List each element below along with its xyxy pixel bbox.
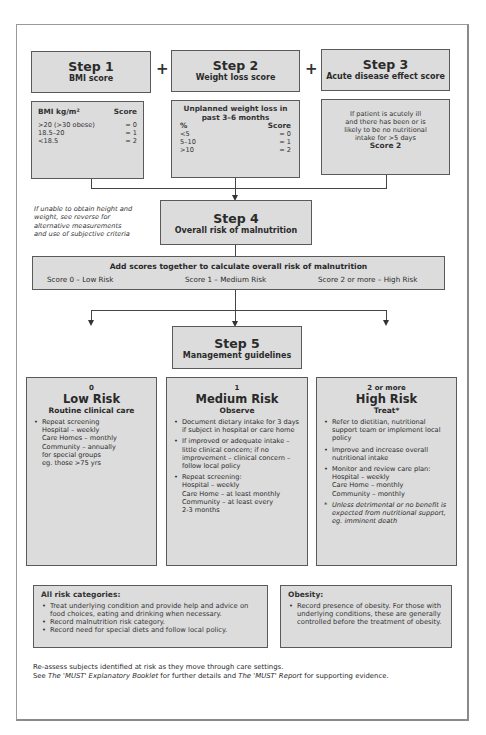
bullet-text: Monitor and review care plan: [332, 465, 430, 473]
score-header: Score [268, 122, 291, 130]
acute-text: If patient is acutely ill [322, 110, 449, 118]
acute-text: likely to be no nutritional [322, 126, 449, 134]
step-1-box: Step 1 BMI score [31, 51, 151, 93]
obesity-title: Obesity: [288, 591, 444, 599]
low-risk-box: 0 Low Risk Routine clinical care Repeat … [26, 377, 157, 566]
connector [91, 179, 92, 188]
footer-text-part: for supporting evidence. [302, 672, 389, 680]
step-2-title: Step 2 [172, 59, 299, 73]
acute-disease-box: If patient is acutely ill and there has … [321, 99, 450, 175]
all-risk-box: All risk categories: Treat underlying co… [33, 585, 268, 648]
bmi-score: = 2 [125, 137, 137, 145]
bullet-line: Hospital – weekly [332, 473, 450, 481]
step-1-title: Step 1 [32, 60, 150, 74]
side-note-line: and use of subjective criteria [34, 230, 154, 238]
acute-score: Score 2 [322, 142, 449, 150]
low-risk-score: Score 0 – Low Risk [47, 275, 114, 284]
high-risk-title: High Risk [317, 393, 456, 406]
connector [235, 245, 236, 256]
connector [91, 188, 387, 189]
high-risk-subtitle: Treat* [317, 406, 456, 416]
high-risk-bullet: Monitor and review care plan: Hospital –… [323, 465, 450, 498]
step-5-subtitle: Management guidelines [173, 351, 301, 361]
weight-loss-range: 5–10 [180, 138, 196, 146]
medium-risk-bullet: Document dietary intake for 3 days if su… [173, 418, 301, 434]
bullet-text: Repeat screening: [182, 473, 242, 481]
bullet-line: Hospital – weekly [182, 481, 301, 489]
step-3-box: Step 3 Acute disease effect score [321, 49, 450, 91]
all-risk-item: Record malnutrition risk category. [41, 618, 260, 626]
bmi-range: >20 (>30 obese) [38, 121, 95, 129]
bmi-range: <18.5 [38, 137, 58, 145]
report-reference: The 'MUST' Report [238, 672, 302, 680]
step-5-title: Step 5 [173, 337, 301, 351]
step-3-title: Step 3 [322, 58, 449, 72]
medium-risk-bullet: If improved or adequate intake – little … [173, 437, 301, 470]
step-4-subtitle: Overall risk of malnutrition [161, 226, 311, 236]
step-1-subtitle: BMI score [32, 74, 150, 84]
bullet-line: Care Home – monthly [332, 481, 450, 489]
plus-sign: + [305, 60, 318, 78]
weight-loss-score: = 2 [279, 146, 291, 154]
weight-loss-score: = 1 [279, 138, 291, 146]
step-2-subtitle: Weight loss score [172, 73, 299, 83]
step-5-box: Step 5 Management guidelines [172, 326, 302, 369]
bullet-line: Community – annually [42, 443, 150, 451]
acute-text: and there has been or is [322, 118, 449, 126]
weight-loss-table: Unplanned weight loss in past 3–6 months… [171, 100, 300, 178]
weight-loss-range: <5 [180, 130, 190, 138]
footer-text-part: See [33, 672, 48, 680]
overall-risk-heading: Add scores together to calculate overall… [33, 262, 444, 272]
plus-sign: + [156, 60, 169, 78]
bullet-line: Care Home – at least monthly [182, 490, 301, 498]
reference-note: See The 'MUST' Explanatory Booklet for f… [33, 672, 463, 681]
high-risk-box: 2 or more High Risk Treat* Refer to diet… [316, 377, 457, 566]
bullet-text: Repeat screening [42, 418, 99, 426]
overall-risk-box: Add scores together to calculate overall… [32, 256, 445, 290]
low-risk-subtitle: Routine clinical care [27, 406, 156, 416]
footer-text: Re-assess subjects identified at risk as… [33, 663, 463, 681]
high-risk-bullet: Improve and increase overall nutritional… [323, 446, 450, 462]
step-4-box: Step 4 Overall risk of malnutrition [160, 200, 312, 245]
bullet-line: 2-3 months [182, 506, 301, 514]
bullet-line: for special groups [42, 451, 150, 459]
side-note-line: If unable to obtain height and [34, 205, 154, 213]
weight-loss-range: >10 [180, 146, 194, 154]
step-4-title: Step 4 [161, 212, 311, 226]
bmi-range: 18.5–20 [38, 129, 64, 137]
bmi-score: = 0 [125, 121, 137, 129]
medium-risk-box: 1 Medium Risk Observe Document dietary i… [166, 377, 308, 566]
reassess-note: Re-assess subjects identified at risk as… [33, 663, 463, 672]
side-note-line: weight, see reverse for [34, 213, 154, 221]
all-risk-title: All risk categories: [41, 591, 260, 599]
bmi-score: = 1 [125, 129, 137, 137]
weight-loss-score: = 0 [279, 130, 291, 138]
all-risk-item: Treat underlying condition and provide h… [41, 602, 260, 618]
bmi-table: BMI kg/m² Score >20 (>30 obese)= 0 18.5–… [31, 101, 144, 179]
medium-risk-score: Score 1 – Medium Risk [185, 275, 266, 284]
bullet-line: Care Homes – monthly [42, 434, 150, 442]
obesity-box: Obesity: Record presence of obesity. For… [280, 585, 452, 648]
arrow-down-icon [88, 320, 94, 326]
bmi-header: BMI kg/m² [38, 108, 80, 116]
obesity-item: Record presence of obesity. For those wi… [288, 602, 444, 626]
footer-text-part: for further details and [158, 672, 238, 680]
high-risk-score: Score 2 or more – High Risk [318, 275, 417, 284]
step-2-box: Step 2 Weight loss score [171, 50, 300, 92]
medium-risk-title: Medium Risk [167, 393, 307, 406]
percent-header: % [180, 122, 187, 130]
medium-risk-bullet: Repeat screening: Hospital – weekly Care… [173, 473, 301, 514]
bullet-line: Community – monthly [332, 490, 450, 498]
arrow-down-icon [383, 320, 389, 326]
low-risk-bullet: Repeat screening Hospital – weekly Care … [33, 418, 150, 467]
connector [386, 175, 387, 188]
connector [235, 290, 236, 323]
high-risk-bullet: Refer to dietitian, nutritional support … [323, 418, 450, 443]
bullet-line: Community – at least every [182, 498, 301, 506]
side-note: If unable to obtain height and weight, s… [34, 205, 154, 238]
step-3-subtitle: Acute disease effect score [322, 72, 449, 82]
medium-risk-subtitle: Observe [167, 406, 307, 416]
connector [91, 310, 387, 311]
bullet-line: eg. those >75 yrs [42, 459, 150, 467]
score-header: Score [114, 108, 137, 116]
